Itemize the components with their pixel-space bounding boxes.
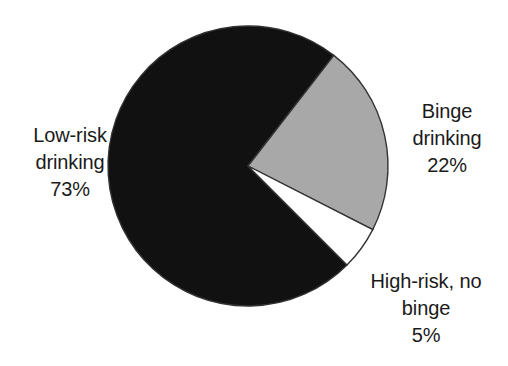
pie-chart-figure: Low-risk drinking 73% Binge drinking 22%… — [0, 0, 508, 366]
pie-label-high-risk: High-risk, no binge 5% — [344, 268, 508, 349]
pie-label-low-risk: Low-risk drinking 73% — [6, 122, 134, 203]
pie-label-binge-line1: Binge — [388, 98, 506, 125]
pie-label-high-risk-value: 5% — [344, 322, 508, 349]
pie-label-low-risk-value: 73% — [6, 176, 134, 203]
pie-label-binge-line2: drinking — [388, 125, 506, 152]
pie-label-binge: Binge drinking 22% — [388, 98, 506, 179]
pie-label-high-risk-line2: binge — [344, 295, 508, 322]
pie-label-high-risk-line1: High-risk, no — [344, 268, 508, 295]
pie-label-low-risk-line1: Low-risk — [6, 122, 134, 149]
pie-label-low-risk-line2: drinking — [6, 149, 134, 176]
pie-label-binge-value: 22% — [388, 152, 506, 179]
